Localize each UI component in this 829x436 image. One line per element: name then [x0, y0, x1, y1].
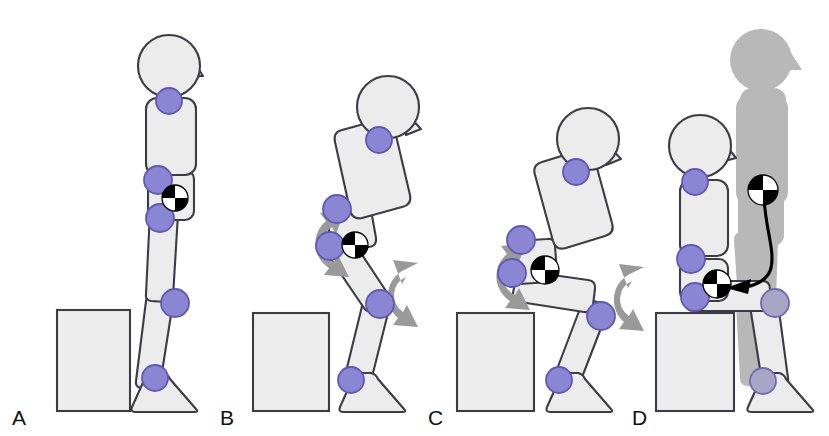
joint-marker-neck	[156, 88, 182, 114]
panel-B: B	[210, 0, 420, 436]
head	[357, 76, 419, 138]
rotation-arrow-knee	[388, 260, 418, 327]
com-marker	[342, 232, 368, 258]
panel-D: D	[630, 0, 829, 436]
joint-marker-ankle	[142, 365, 168, 391]
joint-marker-ankle	[546, 367, 572, 393]
joint-marker-ankle	[338, 367, 364, 393]
joint-marker-hip	[323, 195, 351, 223]
joint-marker-hip	[677, 245, 705, 273]
com-marker	[162, 185, 188, 211]
panel-D-graphic	[630, 0, 829, 436]
panel-label-C: C	[428, 406, 443, 430]
chair-box	[457, 313, 534, 411]
ghost-joint-marker-ankle	[750, 368, 776, 394]
joint-marker-neck	[682, 169, 708, 195]
panel-C: C	[420, 0, 630, 436]
head	[669, 115, 731, 177]
panel-A: A	[0, 0, 210, 436]
com-marker-standing	[748, 175, 778, 205]
joint-marker-neck	[563, 159, 589, 185]
chair-box	[253, 313, 329, 411]
chair-box	[57, 310, 130, 411]
panel-B-graphic	[210, 0, 420, 436]
ghost-joint-marker-knee	[761, 289, 789, 317]
panel-label-D: D	[632, 406, 647, 430]
joint-marker-neck	[366, 127, 392, 153]
head	[557, 108, 619, 170]
panel-label-B: B	[220, 406, 234, 430]
joint-marker-pelvis-lower	[316, 232, 344, 260]
panel-label-A: A	[12, 406, 26, 430]
joint-marker-hip	[507, 226, 535, 254]
com-marker-seated	[703, 270, 731, 298]
panel-C-graphic	[420, 0, 630, 436]
joint-marker-knee	[587, 302, 615, 330]
figure-canvas: A	[0, 0, 829, 436]
panel-A-graphic	[0, 0, 210, 436]
com-marker	[531, 256, 559, 284]
joint-marker-knee	[366, 290, 394, 318]
joint-marker-pelvis-lower	[498, 259, 526, 287]
joint-marker-knee	[161, 289, 189, 317]
chair-box	[656, 313, 734, 411]
